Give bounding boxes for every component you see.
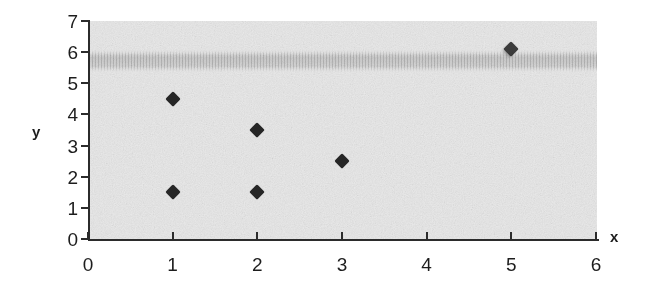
x-tick-label-3: 3 xyxy=(328,255,356,274)
x-tick-6 xyxy=(595,232,597,239)
data-point xyxy=(250,122,266,138)
scatter-plot-figure: 01234567 0123456 y x xyxy=(0,0,647,292)
x-tick-label-0: 0 xyxy=(74,255,102,274)
y-tick-label-4: 4 xyxy=(54,105,78,124)
y-tick-label-1: 1 xyxy=(54,199,78,218)
y-tick-label-6: 6 xyxy=(54,43,78,62)
x-tick-label-4: 4 xyxy=(413,255,441,274)
y-tick-label-7: 7 xyxy=(54,12,78,31)
data-point xyxy=(165,91,181,107)
data-point xyxy=(504,41,520,57)
y-tick-5 xyxy=(81,82,88,84)
y-tick-label-2: 2 xyxy=(54,168,78,187)
scan-artifact-band xyxy=(89,50,597,72)
data-point xyxy=(334,153,350,169)
x-tick-4 xyxy=(426,232,428,239)
y-tick-label-0: 0 xyxy=(54,230,78,249)
plot-area xyxy=(89,21,597,239)
y-tick-6 xyxy=(81,51,88,53)
x-axis-title: x xyxy=(610,229,618,244)
x-tick-label-1: 1 xyxy=(159,255,187,274)
x-tick-label-5: 5 xyxy=(497,255,525,274)
paper-grain-texture xyxy=(89,21,597,239)
x-tick-1 xyxy=(172,232,174,239)
x-tick-3 xyxy=(341,232,343,239)
y-tick-1 xyxy=(81,207,88,209)
y-tick-4 xyxy=(81,113,88,115)
y-tick-label-3: 3 xyxy=(54,137,78,156)
y-axis-line xyxy=(88,20,90,241)
y-tick-2 xyxy=(81,176,88,178)
y-tick-label-5: 5 xyxy=(54,74,78,93)
x-tick-label-6: 6 xyxy=(582,255,610,274)
x-tick-label-2: 2 xyxy=(243,255,271,274)
x-tick-5 xyxy=(510,232,512,239)
y-tick-7 xyxy=(81,20,88,22)
y-tick-3 xyxy=(81,145,88,147)
x-tick-2 xyxy=(256,232,258,239)
y-axis-title: y xyxy=(32,124,40,139)
x-axis-line xyxy=(88,239,599,241)
data-point xyxy=(250,185,266,201)
x-tick-0 xyxy=(87,232,89,239)
data-point xyxy=(165,185,181,201)
